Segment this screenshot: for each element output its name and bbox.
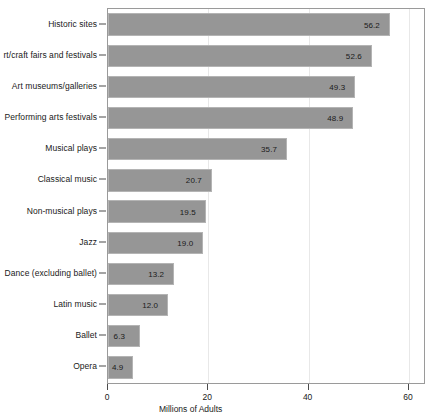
y-tick-label: Classical music bbox=[38, 174, 97, 184]
x-tick-label: 40 bbox=[303, 392, 312, 402]
y-tick-label: Art museums/galleries bbox=[12, 81, 97, 91]
y-axis: Historic sitesrt/craft fairs and festiva… bbox=[0, 8, 107, 384]
x-tick-mark bbox=[107, 384, 108, 390]
bar-value-label: 6.3 bbox=[114, 332, 125, 341]
bar bbox=[108, 107, 353, 129]
bar-row: 12.0 bbox=[108, 294, 424, 316]
bars-layer: 56.252.649.348.935.720.719.519.013.212.0… bbox=[108, 9, 424, 383]
bar-row: 48.9 bbox=[108, 107, 424, 129]
y-tick-mark bbox=[99, 366, 106, 367]
plot-panel: 56.252.649.348.935.720.719.519.013.212.0… bbox=[107, 8, 425, 384]
bar-row: 52.6 bbox=[108, 45, 424, 67]
bar-row: 49.3 bbox=[108, 76, 424, 98]
y-tick-mark bbox=[99, 241, 106, 242]
x-tick-mark bbox=[308, 384, 309, 390]
y-tick-mark bbox=[99, 148, 106, 149]
y-tick-mark bbox=[99, 54, 106, 55]
x-tick-label: 0 bbox=[105, 392, 110, 402]
bar-value-label: 20.7 bbox=[186, 176, 202, 185]
bar-row: 20.7 bbox=[108, 169, 424, 191]
y-tick-mark bbox=[99, 85, 106, 86]
bar-value-label: 49.3 bbox=[329, 82, 345, 91]
y-tick-mark bbox=[99, 335, 106, 336]
bar-value-label: 52.6 bbox=[346, 51, 362, 60]
bar-chart: Historic sitesrt/craft fairs and festiva… bbox=[0, 0, 436, 413]
y-tick-mark bbox=[99, 179, 106, 180]
y-tick-label: Jazz bbox=[79, 237, 97, 247]
bar-value-label: 4.9 bbox=[112, 363, 123, 372]
y-tick-mark bbox=[99, 117, 106, 118]
bar-value-label: 13.2 bbox=[148, 269, 164, 278]
bar-value-label: 19.0 bbox=[177, 238, 193, 247]
bar-value-label: 56.2 bbox=[364, 20, 380, 29]
x-tick-mark bbox=[408, 384, 409, 390]
y-tick-label: Performing arts festivals bbox=[5, 112, 97, 122]
bar bbox=[108, 263, 174, 285]
bar-row: 19.5 bbox=[108, 200, 424, 222]
y-tick-label: Opera bbox=[73, 361, 97, 371]
x-tick-mark bbox=[207, 384, 208, 390]
bar bbox=[108, 13, 390, 35]
y-tick-mark bbox=[99, 23, 106, 24]
y-tick-label: rt/craft fairs and festivals bbox=[3, 50, 97, 60]
y-tick-label: Dance (excluding ballet) bbox=[5, 268, 97, 278]
bar-row: 56.2 bbox=[108, 13, 424, 35]
y-tick-mark bbox=[99, 304, 106, 305]
bar-value-label: 35.7 bbox=[261, 145, 277, 154]
x-tick-label: 20 bbox=[203, 392, 212, 402]
bar bbox=[108, 76, 355, 98]
y-tick-mark bbox=[99, 272, 106, 273]
bar-row: 6.3 bbox=[108, 325, 424, 347]
bar-row: 4.9 bbox=[108, 356, 424, 378]
bar bbox=[108, 294, 168, 316]
y-tick-label: Musical plays bbox=[45, 143, 97, 153]
y-tick-mark bbox=[99, 210, 106, 211]
bar-row: 19.0 bbox=[108, 232, 424, 254]
bar bbox=[108, 45, 372, 67]
bar-value-label: 19.5 bbox=[180, 207, 196, 216]
bar-row: 13.2 bbox=[108, 263, 424, 285]
y-tick-label: Non-musical plays bbox=[27, 206, 97, 216]
bar-value-label: 48.9 bbox=[327, 114, 343, 123]
x-axis-title: Millions of Adults bbox=[159, 404, 436, 413]
y-tick-label: Latin music bbox=[53, 299, 97, 309]
bar-value-label: 12.0 bbox=[142, 301, 158, 310]
y-tick-label: Ballet bbox=[75, 330, 97, 340]
bar-row: 35.7 bbox=[108, 138, 424, 160]
x-tick-label: 60 bbox=[403, 392, 412, 402]
y-tick-label: Historic sites bbox=[48, 19, 97, 29]
